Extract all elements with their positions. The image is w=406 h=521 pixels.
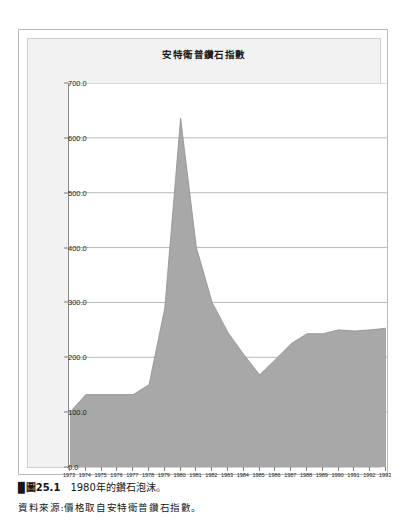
- x-axis-tick-mark: [259, 467, 260, 471]
- plot-wrapper: 700.0600.0500.0400.0300.0200.0100.00.0 1…: [68, 75, 388, 460]
- x-axis-tick-label: 1982: [205, 472, 217, 478]
- x-axis-tick-mark: [164, 467, 165, 471]
- y-axis-tick-label: 600.0: [68, 133, 72, 142]
- x-axis-tick-mark: [211, 467, 212, 471]
- x-axis-tick-label: 1978: [142, 472, 154, 478]
- y-axis-tick-label: 200.0: [68, 353, 72, 362]
- x-axis-tick-mark: [132, 467, 133, 471]
- y-axis-tick-mark: [64, 247, 68, 248]
- x-axis-tick-label: 1980: [174, 472, 186, 478]
- x-axis-tick-mark: [369, 467, 370, 471]
- x-axis-tick-label: 1976: [110, 472, 122, 478]
- x-axis-tick-label: 1975: [95, 472, 107, 478]
- caption-block: ▉圖25.11980年的鑽石泡沫。 資料來源:價格取自安特衛普鑽石指數。: [18, 481, 388, 514]
- x-axis-tick-label: 1993: [379, 472, 391, 478]
- x-axis-tick-label: 1973: [63, 472, 75, 478]
- x-axis-tick-mark: [306, 467, 307, 471]
- x-axis-tick-mark: [69, 467, 70, 471]
- caption-bullet-icon: ▉: [18, 481, 26, 496]
- x-axis-tick-mark: [385, 467, 386, 471]
- x-axis-tick-mark: [243, 467, 244, 471]
- x-axis-tick-label: 1974: [79, 472, 91, 478]
- figure-number: 圖25.1: [26, 482, 61, 493]
- y-axis-tick-label: 500.0: [68, 188, 72, 197]
- x-axis-tick-mark: [85, 467, 86, 471]
- y-axis-tick-mark: [64, 412, 68, 413]
- x-axis-tick-mark: [195, 467, 196, 471]
- x-axis-tick-label: 1981: [189, 472, 201, 478]
- x-axis-tick-label: 1984: [237, 472, 249, 478]
- x-axis-tick-label: 1987: [284, 472, 296, 478]
- y-axis-tick-mark: [64, 192, 68, 193]
- x-axis-tick-label: 1985: [253, 472, 265, 478]
- y-axis-tick-label: 300.0: [68, 298, 72, 307]
- y-axis-tick-mark: [64, 357, 68, 358]
- y-axis-tick-label: 100.0: [68, 408, 72, 417]
- y-axis-tick-label: 700.0: [68, 79, 72, 88]
- figure-caption-text: 1980年的鑽石泡沫。: [70, 482, 165, 493]
- x-axis-tick-mark: [338, 467, 339, 471]
- x-axis-tick-label: 1977: [126, 472, 138, 478]
- x-axis-tick-mark: [148, 467, 149, 471]
- x-axis-tick-mark: [116, 467, 117, 471]
- chart-panel: 安特衛普鑽石指數 700.0600.0500.0400.0300.0200.01…: [27, 38, 381, 468]
- figure-caption: ▉圖25.11980年的鑽石泡沫。: [18, 481, 388, 496]
- x-axis-tick-mark: [322, 467, 323, 471]
- area-chart-svg: [69, 83, 387, 467]
- y-axis-tick-mark: [64, 302, 68, 303]
- x-axis-tick-label: 1983: [221, 472, 233, 478]
- y-axis-tick-label: 400.0: [68, 243, 72, 252]
- y-axis-tick-mark: [64, 467, 68, 468]
- plot-area: [68, 83, 386, 467]
- x-axis-tick-mark: [227, 467, 228, 471]
- figure-frame: 安特衛普鑽石指數 700.0600.0500.0400.0300.0200.01…: [18, 29, 388, 475]
- figure-source: 資料來源:價格取自安特衛普鑽石指數。: [18, 500, 388, 514]
- x-axis-tick-mark: [274, 467, 275, 471]
- x-axis-tick-label: 1979: [158, 472, 170, 478]
- x-axis-tick-mark: [180, 467, 181, 471]
- x-axis-tick-label: 1990: [332, 472, 344, 478]
- y-axis-tick-mark: [64, 83, 68, 84]
- y-axis-tick-mark: [64, 137, 68, 138]
- x-axis-tick-mark: [353, 467, 354, 471]
- chart-title: 安特衛普鑽石指數: [28, 47, 380, 61]
- x-axis-tick-label: 1986: [268, 472, 280, 478]
- x-axis-tick-label: 1988: [300, 472, 312, 478]
- x-axis-tick-label: 1991: [347, 472, 359, 478]
- x-axis-tick-mark: [101, 467, 102, 471]
- x-axis-tick-mark: [290, 467, 291, 471]
- x-axis-tick-label: 1989: [316, 472, 328, 478]
- x-axis-tick-label: 1992: [363, 472, 375, 478]
- series-area-diamond-index: [70, 118, 386, 467]
